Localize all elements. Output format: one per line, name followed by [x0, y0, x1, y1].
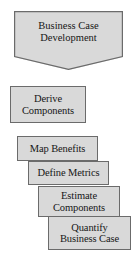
- step-label-derive-components: Derive Components: [11, 93, 85, 116]
- step-estimate-components[interactable]: Estimate Components: [38, 186, 120, 217]
- step-label-define-metrics: Define Metrics: [29, 167, 108, 178]
- header-label: Business Case Development: [14, 11, 123, 44]
- header-shape-business-case-development[interactable]: Business Case Development: [14, 11, 123, 70]
- process-flow-diagram: Business Case Development Derive Compone…: [0, 0, 139, 268]
- step-derive-components[interactable]: Derive Components: [10, 86, 86, 123]
- step-map-benefits[interactable]: Map Benefits: [17, 136, 98, 161]
- step-define-metrics[interactable]: Define Metrics: [28, 161, 109, 185]
- step-label-map-benefits: Map Benefits: [18, 143, 97, 154]
- step-label-estimate-components: Estimate Components: [39, 190, 119, 213]
- step-label-quantify-business-case: Quantify Business Case: [49, 222, 130, 245]
- step-quantify-business-case[interactable]: Quantify Business Case: [48, 216, 131, 250]
